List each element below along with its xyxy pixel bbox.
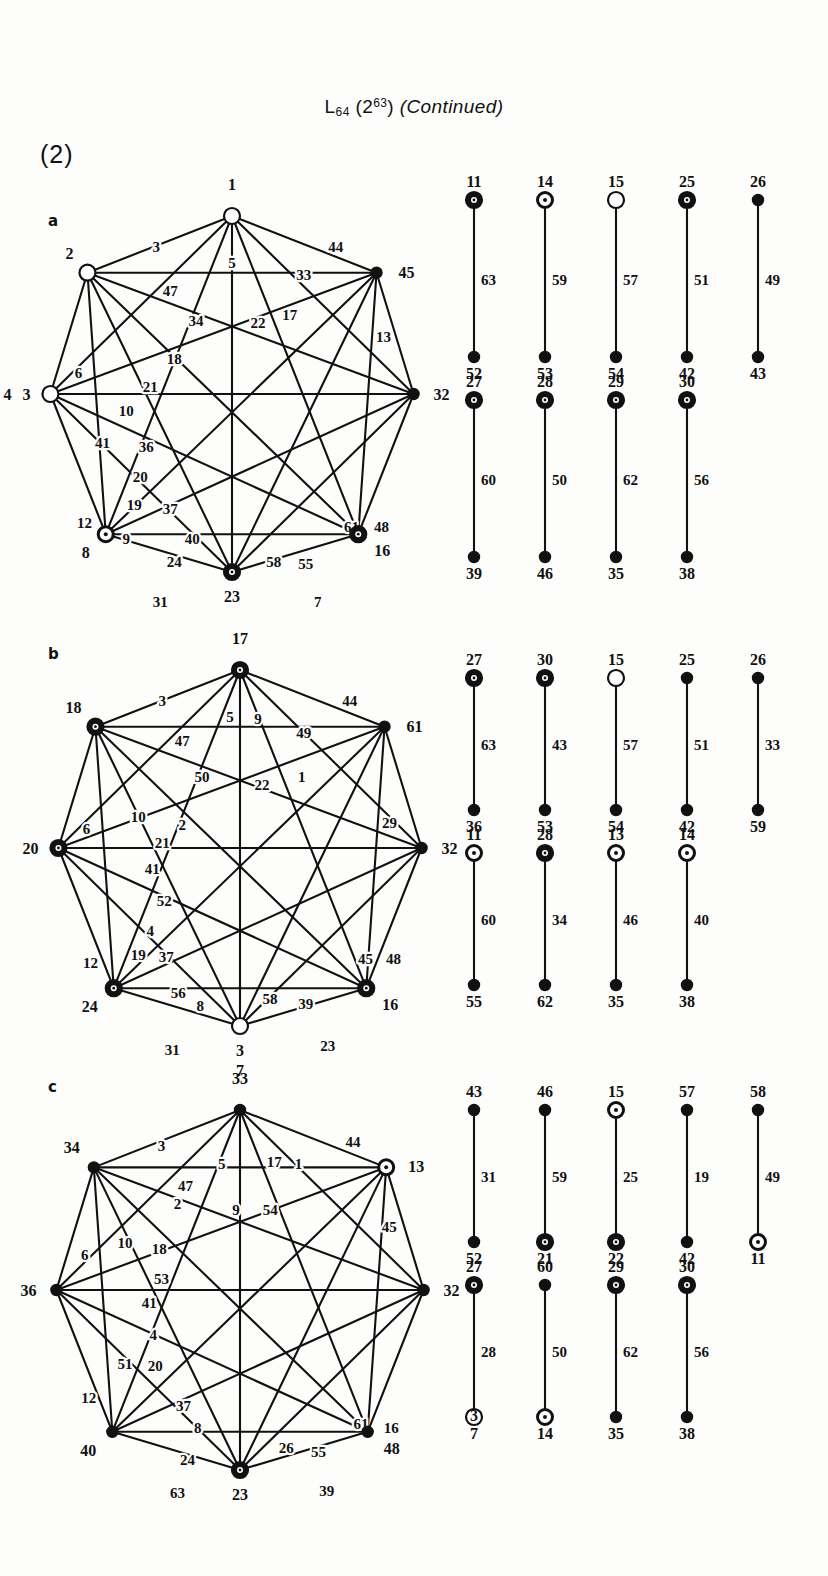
edge-label-halo: 10: [119, 403, 134, 419]
edge-label: 33: [296, 267, 311, 283]
edge-label-halo: 18: [152, 1241, 167, 1257]
segment-edge-label: 59: [552, 272, 567, 288]
segment-edge-label: 33: [765, 737, 780, 753]
segment-bottom-label: 62: [537, 993, 553, 1010]
edge-label-halo: 36: [139, 439, 155, 455]
node-label: 36: [20, 1282, 36, 1299]
segment-edge-label: 50: [552, 1344, 567, 1360]
segment-edge-label: 63: [481, 272, 496, 288]
graph-node: [51, 1284, 62, 1295]
segment-top-label: 46: [537, 1083, 553, 1100]
edge-label: 1: [298, 769, 306, 785]
graph-node: [609, 393, 624, 408]
edge-label-halo: 44: [342, 693, 358, 709]
edge-label-halo: 19: [131, 947, 146, 963]
edge-label-halo: 9: [232, 1202, 240, 1218]
segment-bottom-label-alt: 7: [470, 1425, 478, 1442]
edge-label-halo: 22: [254, 777, 269, 793]
graph-node: [371, 267, 382, 278]
title-continued: (Continued): [400, 96, 504, 117]
graph-node: [538, 1410, 553, 1425]
edge-label: 55: [311, 1444, 326, 1460]
graph-node: [752, 351, 763, 362]
node-label: 3: [236, 1042, 244, 1059]
edge-label: 4: [150, 1327, 158, 1343]
graph-node: [680, 393, 695, 408]
graph-node: [752, 194, 763, 205]
graph-node: [79, 265, 95, 281]
edge-label: 24: [167, 554, 183, 570]
edge-label-halo: 24: [180, 1452, 196, 1468]
segment-top-label: 26: [750, 173, 766, 190]
segment-top-label: 27: [466, 373, 482, 390]
segment-edge-label: 62: [623, 1344, 638, 1360]
node-label: 23: [224, 588, 240, 605]
edge-label-halo: 5: [218, 1156, 226, 1172]
edge-label-halo: 12: [81, 1390, 96, 1406]
edge-label-halo: 12: [83, 955, 98, 971]
segment-bottom-label: 52: [466, 1250, 482, 1267]
segment-bottom-label: 35: [608, 565, 624, 582]
edge-label-halo: 31: [165, 1042, 180, 1058]
edge-label-halo: 8: [194, 1420, 202, 1436]
edge-label: 61: [344, 519, 359, 535]
edge-label: 10: [119, 403, 134, 419]
graph-node: [107, 1426, 118, 1437]
edge-label-halo: 5: [226, 709, 234, 725]
edge-label-halo: 47: [163, 283, 179, 299]
edge-label: 6: [75, 365, 83, 381]
edge-label-halo: 4: [147, 923, 155, 939]
graph-node: [539, 804, 550, 815]
edge-label: 21: [155, 835, 170, 851]
edge-label: 47: [178, 1178, 194, 1194]
node-label: 17: [232, 630, 248, 647]
segment-edge-label: 19: [694, 1169, 709, 1185]
graph-node: [609, 846, 624, 861]
graph-node: [233, 663, 248, 678]
graph-edges: [50, 216, 413, 572]
segment-top-label: 28: [537, 373, 553, 390]
edge-label-halo: 2: [178, 817, 186, 833]
graph-node: [234, 1104, 245, 1115]
edge-label-halo: 47: [175, 733, 191, 749]
edge-label-halo: 61: [353, 1416, 368, 1432]
graph-node: [466, 1409, 482, 1425]
edge-label: 55: [298, 556, 313, 572]
segment-edge-label: 34: [552, 912, 568, 928]
graph-node: [408, 388, 419, 399]
segment-bottom-label: 35: [608, 1425, 624, 1442]
graph-node: [681, 1236, 692, 1247]
edge-label: 17: [282, 307, 298, 323]
edge-label-halo: 6: [75, 365, 83, 381]
edge-label: 31: [153, 594, 168, 610]
graph-node: [538, 1235, 553, 1250]
segment-top-label: 11: [466, 826, 481, 843]
node-label: 1: [228, 176, 236, 193]
graph-node: [608, 670, 624, 686]
segment-bottom-label: 42: [679, 818, 695, 835]
edge-label: 51: [118, 1356, 133, 1372]
edge-label: 44: [345, 1134, 361, 1150]
segment-top-label: 15: [608, 651, 624, 668]
graph-node: [538, 393, 553, 408]
node-label: 40: [80, 1442, 96, 1459]
edge-label: 22: [250, 315, 265, 331]
edge-label-halo: 54: [263, 1202, 279, 1218]
graph-node: [418, 1284, 429, 1295]
graph-node: [539, 1104, 550, 1115]
graph-node: [379, 1160, 394, 1175]
edge-label-halo: 44: [345, 1134, 361, 1150]
edge-label-halo: 20: [133, 469, 148, 485]
node-label: 18: [65, 699, 81, 716]
edge-label: 50: [195, 769, 210, 785]
edge-label: 3: [158, 693, 166, 709]
graph-node: [609, 1278, 624, 1293]
edge-label-halo: 45: [382, 1219, 397, 1235]
segment-top-label: 14: [537, 173, 553, 190]
segment-bottom-label: 38: [679, 565, 695, 582]
node-label-alt: 4: [3, 386, 11, 403]
edge-label: 36: [139, 439, 155, 455]
segment-top-label: 58: [750, 1083, 766, 1100]
edge-label: 41: [142, 1295, 157, 1311]
edge-label: 12: [83, 955, 98, 971]
